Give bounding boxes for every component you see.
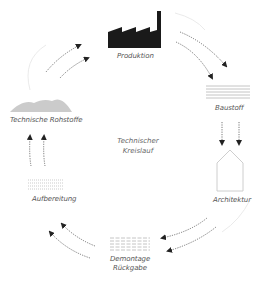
node-label-rueckgabe: Rückgabe bbox=[113, 264, 147, 272]
technical-cycle-diagram: Produktion Baustoff Architektur Demontag… bbox=[0, 0, 260, 282]
center-label: Technischer Kreislauf bbox=[108, 136, 168, 156]
center-label-line2: Kreislauf bbox=[108, 146, 168, 156]
dismantled-elements-icon bbox=[110, 238, 150, 250]
node-label-baustoff: Baustoff bbox=[215, 104, 243, 112]
house-outline-icon bbox=[217, 150, 243, 191]
factory-icon bbox=[108, 11, 161, 48]
raw-material-hills-icon bbox=[10, 100, 72, 112]
node-label-demontage: Demontage bbox=[110, 255, 150, 263]
node-label-architektur: Architektur bbox=[213, 196, 251, 204]
node-label-aufbereitung: Aufbereitung bbox=[32, 195, 76, 203]
processing-grid-icon bbox=[28, 180, 64, 189]
material-layers-icon bbox=[206, 86, 250, 98]
node-label-rohstoffe: Technische Rohstoffe bbox=[10, 116, 82, 124]
center-label-line1: Technischer bbox=[108, 136, 168, 146]
node-label-produktion: Produktion bbox=[117, 52, 154, 60]
